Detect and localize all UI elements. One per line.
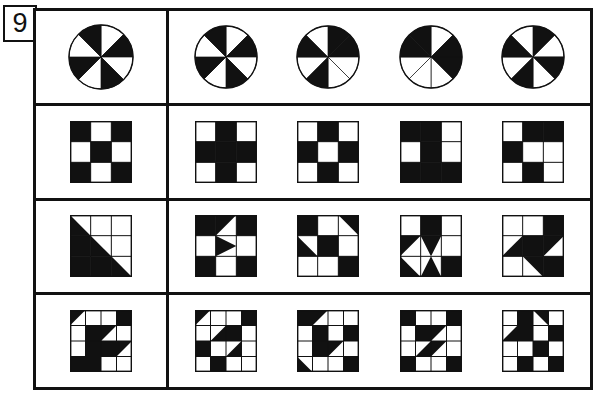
grid3-checkerboard (70, 121, 132, 183)
stem-cell (36, 11, 169, 103)
grid3-step[interactable] (502, 121, 564, 183)
options-cell (169, 106, 590, 198)
options-cell (169, 11, 590, 103)
grid3-arrow-right[interactable] (195, 215, 257, 277)
puzzle-rows (36, 11, 590, 387)
grid4-option-b[interactable] (297, 310, 359, 372)
options-cell (169, 295, 590, 387)
stem-cell (36, 106, 169, 198)
pie-8-sector-alternating[interactable] (194, 25, 258, 89)
puzzle-row (36, 201, 590, 296)
grid3-block-notch[interactable] (400, 121, 462, 183)
puzzle-row (36, 295, 590, 387)
stem-cell (36, 295, 169, 387)
puzzle-frame (33, 8, 593, 390)
puzzle-row (36, 106, 590, 201)
pie-8-sector-uneven[interactable] (296, 25, 360, 89)
grid4-option-a[interactable] (195, 310, 257, 372)
grid3-diagonal-band[interactable] (297, 215, 359, 277)
item-number-label: 9 (12, 10, 27, 37)
stem-cell (36, 201, 169, 293)
puzzle-page: 9 (0, 0, 599, 400)
grid3-check-arrow[interactable] (502, 215, 564, 277)
grid3-lower-left-triangle (70, 215, 132, 277)
grid3-diamond[interactable] (400, 215, 462, 277)
grid4-diagonal-wedge (70, 310, 132, 372)
pie-4-sector-diagonal[interactable] (399, 25, 463, 89)
options-cell (169, 201, 590, 293)
grid3-checkerboard-inverted[interactable] (297, 121, 359, 183)
grid4-option-c[interactable] (400, 310, 462, 372)
pie-8-sector-pinwheel (68, 24, 134, 90)
pie-8-sector-alternating-rotated[interactable] (501, 25, 565, 89)
item-number-box: 9 (3, 5, 37, 42)
grid4-option-d[interactable] (502, 310, 564, 372)
grid3-plus-cross[interactable] (195, 121, 257, 183)
puzzle-row (36, 11, 590, 106)
